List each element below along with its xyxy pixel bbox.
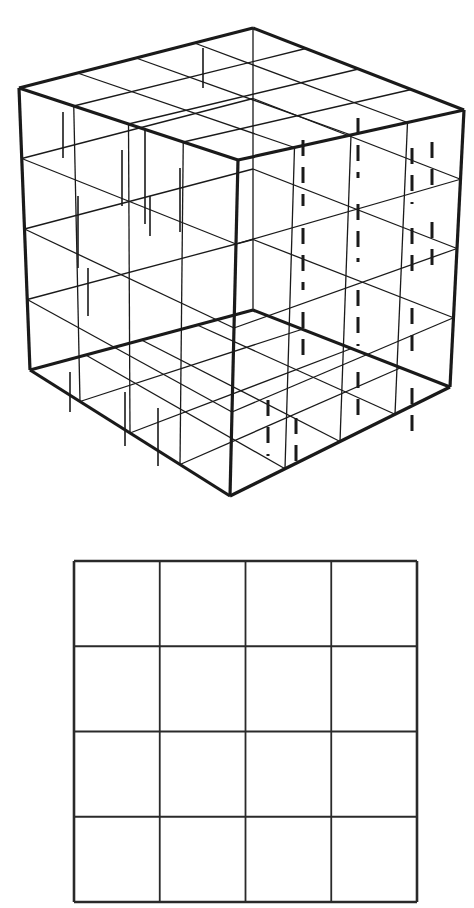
cube-front-vertical-edge [230, 160, 238, 496]
back-right-gridline [253, 240, 454, 318]
back-left-gridline [25, 169, 254, 229]
cube-edge-vertical-right [450, 110, 464, 387]
top-face-gridline [129, 69, 359, 124]
cube-edge-top-back-right [253, 28, 464, 110]
back-right-gridline [253, 169, 457, 249]
back-left-gridline [27, 240, 253, 300]
technical-drawing-canvas [0, 0, 474, 908]
cube-edge-vertical-left [19, 88, 30, 370]
cube-edge-bottom-front-right [230, 387, 450, 496]
back-right-gridline [253, 99, 461, 180]
right-face-vertical [340, 135, 351, 442]
bottom-face-gridline [180, 368, 401, 465]
square-grid [74, 561, 417, 902]
bottom-face-gridline [130, 349, 352, 434]
figure-root [0, 0, 474, 908]
right-face-vertical [285, 148, 295, 469]
wireframe-cube [19, 28, 464, 496]
top-face-gridline [195, 43, 408, 123]
bottom-face-gridline [197, 325, 395, 414]
cube-edge-top-back-left [19, 28, 253, 88]
left-face-vertical [129, 124, 131, 433]
